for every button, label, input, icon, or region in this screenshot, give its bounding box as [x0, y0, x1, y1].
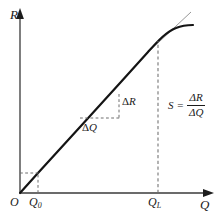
delta-r-label: ΔR	[122, 96, 136, 107]
sensitivity-lhs: S	[168, 99, 174, 111]
sensitivity-denominator: ΔQ	[187, 107, 205, 119]
sensitivity-denominator-symbol: Q	[195, 106, 203, 118]
response-curve-figure: R Q O Q0 QL ΔR ΔQ S = ΔR ΔQ	[0, 0, 219, 221]
x-axis-label: Q	[200, 198, 209, 211]
y-axis-label: R	[10, 8, 18, 21]
tick-label-ql: QL	[148, 196, 161, 210]
origin-label: O	[10, 196, 19, 208]
delta-q-symbol: Q	[89, 121, 97, 133]
delta-q-label: ΔQ	[82, 122, 97, 133]
sensitivity-numerator-symbol: R	[196, 91, 203, 103]
tick-label-ql-subscript: L	[157, 201, 161, 210]
tick-label-q0: Q0	[29, 196, 42, 210]
sensitivity-fraction: ΔR ΔQ	[187, 92, 205, 119]
sensitivity-numerator: ΔR	[188, 92, 205, 104]
x-axis-arrow-icon	[203, 189, 214, 197]
tick-label-q0-symbol: Q	[29, 195, 38, 209]
sensitivity-formula: S = ΔR ΔQ	[168, 92, 205, 119]
delta-r-symbol: R	[129, 95, 136, 107]
sensitivity-equals: =	[177, 99, 184, 111]
tick-label-ql-symbol: Q	[148, 195, 157, 209]
tick-label-q0-subscript: 0	[38, 201, 42, 210]
